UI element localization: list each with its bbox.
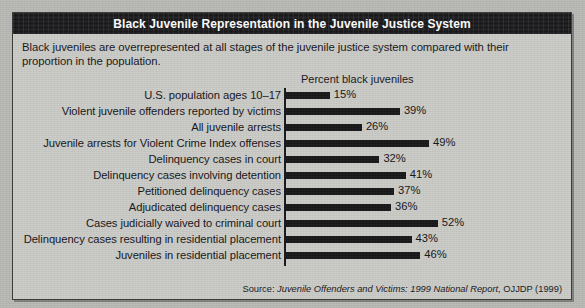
bar-category-label: Petitioned delinquency cases (12, 185, 281, 197)
source-publisher: , OJJDP (1999) (498, 284, 562, 294)
bar-category-label: Violent juvenile offenders reported by v… (12, 105, 281, 117)
bar (286, 188, 394, 195)
bar-row: Delinquency cases in court32% (13, 152, 571, 168)
bar-value-label: 49% (433, 136, 455, 148)
bar-category-label: Juveniles in residential placement (12, 249, 281, 261)
bar-value-label: 32% (383, 152, 405, 164)
bar (286, 140, 429, 147)
bar-row: U.S. population ages 10–1715% (13, 88, 571, 104)
bar-category-label: Delinquency cases in court (12, 153, 281, 165)
bar-category-label: Delinquency cases involving detention (12, 169, 281, 181)
figure-intro-text: Black juveniles are overrepresented at a… (13, 34, 571, 70)
bar (286, 92, 330, 99)
bar-row: Violent juvenile offenders reported by v… (13, 104, 571, 120)
bar-row: Petitioned delinquency cases37% (13, 184, 571, 200)
bar-chart: Percent black juveniles U.S. population … (13, 72, 571, 268)
bar-rows: U.S. population ages 10–1715%Violent juv… (13, 88, 571, 264)
bar-row: All juvenile arrests26% (13, 120, 571, 136)
bar-value-label: 36% (395, 200, 417, 212)
bar (286, 124, 362, 131)
source-title: Juvenile Offenders and Victims: 1999 Nat… (277, 284, 498, 294)
bar-row: Adjudicated delinquency cases36% (13, 200, 571, 216)
bar-category-label: Juvenile arrests for Violent Crime Index… (12, 137, 281, 149)
bar (286, 156, 379, 163)
bar-value-label: 39% (404, 104, 426, 116)
bar-row: Delinquency cases involving detention41% (13, 168, 571, 184)
bar (286, 252, 420, 259)
bar-category-label: Delinquency cases resulting in residenti… (12, 233, 281, 245)
bar-value-label: 37% (398, 184, 420, 196)
bar-value-label: 26% (366, 120, 388, 132)
page-title: Black Juvenile Representation in the Juv… (113, 17, 470, 31)
bar (286, 172, 406, 179)
bar (286, 204, 391, 211)
figure-title-band: Black Juvenile Representation in the Juv… (13, 13, 571, 34)
source-citation: Source: Juvenile Offenders and Victims: … (242, 284, 562, 294)
bar-value-label: 43% (416, 232, 438, 244)
bar-value-label: 41% (410, 168, 432, 180)
x-axis-caption: Percent black juveniles (301, 73, 414, 85)
figure-container: Black Juvenile Representation in the Juv… (12, 12, 572, 300)
bar (286, 220, 438, 227)
bar-category-label: All juvenile arrests (12, 121, 281, 133)
bar-row: Juvenile arrests for Violent Crime Index… (13, 136, 571, 152)
source-prefix: Source: (242, 284, 277, 294)
bar-row: Juveniles in residential placement46% (13, 248, 571, 264)
bar-value-label: 15% (334, 88, 356, 100)
bar-category-label: Cases judicially waived to criminal cour… (12, 217, 281, 229)
bar (286, 108, 400, 115)
bar-category-label: U.S. population ages 10–17 (12, 89, 281, 101)
bar-row: Delinquency cases resulting in residenti… (13, 232, 571, 248)
bar-value-label: 52% (442, 216, 464, 228)
bar-category-label: Adjudicated delinquency cases (12, 201, 281, 213)
bar-value-label: 46% (424, 248, 446, 260)
bar-row: Cases judicially waived to criminal cour… (13, 216, 571, 232)
bar (286, 236, 412, 243)
